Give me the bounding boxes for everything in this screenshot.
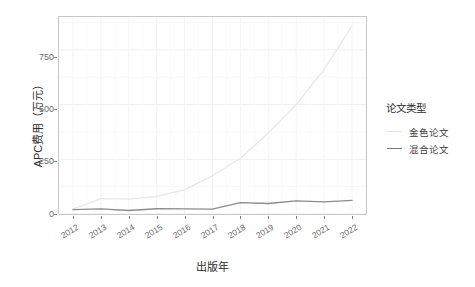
- legend-label-gold: 金色论文: [409, 125, 449, 139]
- x-tick-label-2016: 2016: [166, 222, 192, 243]
- y-tick-label-500: 500: [26, 105, 54, 114]
- y-tick-mark-750: [54, 57, 57, 58]
- x-tick-mark-2017: [213, 216, 214, 219]
- y-tick-mark-500: [54, 109, 57, 110]
- x-tick-label-2017: 2017: [194, 222, 220, 243]
- x-tick-label-2013: 2013: [83, 222, 109, 243]
- y-axis-tick-labels: 750 500 250 0: [24, 0, 54, 287]
- plot-panel: [58, 16, 367, 215]
- x-tick-mark-2013: [101, 216, 102, 219]
- legend-title: 论文类型: [386, 100, 471, 115]
- grid-lines: [59, 17, 366, 214]
- x-tick-mark-2021: [324, 216, 325, 219]
- y-tick-label-0: 0: [26, 210, 54, 219]
- legend-line-icon-hybrid: [386, 142, 403, 156]
- x-tick-label-2020: 2020: [278, 222, 304, 243]
- x-tick-label-2018: 2018: [222, 222, 248, 243]
- y-tick-mark-250: [54, 161, 57, 162]
- x-tick-mark-2018: [240, 216, 241, 219]
- legend-item-hybrid[interactable]: 混合论文: [386, 141, 471, 156]
- chart-container: APC费用（万元） 750 500 250 0 2012201320142015…: [0, 0, 475, 287]
- legend-item-gold[interactable]: 金色论文: [386, 124, 471, 139]
- legend-line-icon-gold: [386, 125, 403, 139]
- x-tick-label-2021: 2021: [306, 222, 332, 243]
- x-tick-mark-2019: [268, 216, 269, 219]
- x-tick-label-2014: 2014: [110, 222, 136, 243]
- x-tick-label-2012: 2012: [55, 222, 81, 243]
- y-tick-label-250: 250: [26, 157, 54, 166]
- x-tick-label-2015: 2015: [138, 222, 164, 243]
- legend-label-hybrid: 混合论文: [409, 142, 449, 156]
- y-tick-mark-0: [54, 214, 57, 215]
- x-tick-mark-2012: [73, 216, 74, 219]
- x-axis-title: 出版年: [58, 258, 367, 274]
- x-tick-label-2019: 2019: [250, 222, 276, 243]
- y-tick-label-750: 750: [26, 53, 54, 62]
- x-tick-mark-2015: [157, 216, 158, 219]
- x-tick-mark-2016: [185, 216, 186, 219]
- legend: 论文类型 金色论文 混合论文: [386, 100, 471, 158]
- x-tick-mark-2022: [352, 216, 353, 219]
- plot-area: [59, 17, 366, 214]
- x-tick-label-2022: 2022: [334, 222, 360, 243]
- x-tick-mark-2020: [296, 216, 297, 219]
- x-tick-mark-2014: [129, 216, 130, 219]
